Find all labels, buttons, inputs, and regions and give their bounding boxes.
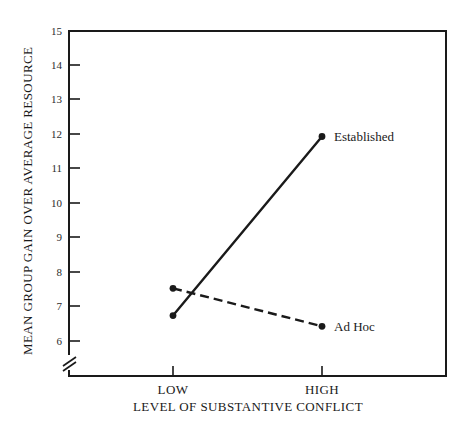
series-ad-hoc-point-low bbox=[170, 285, 177, 292]
y-tick-label-7: 7 bbox=[57, 300, 63, 312]
interaction-line-chart: MEAN GROUP GAIN OVER AVERAGE RESOURCE bbox=[0, 0, 470, 428]
series-established-label: Established bbox=[334, 129, 394, 144]
y-tick-label-13: 13 bbox=[51, 93, 63, 105]
y-tick-label-9: 9 bbox=[57, 231, 63, 243]
x-tick-label-high: HIGH bbox=[305, 382, 339, 397]
series-established-point-high bbox=[319, 133, 326, 140]
y-tick-label-6: 6 bbox=[57, 335, 63, 347]
y-tick-label-15: 15 bbox=[51, 25, 63, 37]
y-tick-label-11: 11 bbox=[51, 162, 62, 174]
series-established-point-low bbox=[170, 312, 177, 319]
y-tick-label-8: 8 bbox=[57, 266, 63, 278]
y-tick-label-12: 12 bbox=[51, 128, 62, 140]
y-axis-title: MEAN GROUP GAIN OVER AVERAGE RESOURCE bbox=[20, 47, 35, 355]
series-ad-hoc-label: Ad Hoc bbox=[334, 319, 375, 334]
x-tick-label-low: LOW bbox=[158, 382, 189, 397]
series-ad-hoc-point-high bbox=[319, 323, 326, 330]
chart-figure: MEAN GROUP GAIN OVER AVERAGE RESOURCE bbox=[0, 0, 470, 428]
y-tick-label-10: 10 bbox=[51, 197, 63, 209]
y-tick-label-14: 14 bbox=[51, 59, 63, 71]
x-axis-title: LEVEL OF SUBSTANTIVE CONFLICT bbox=[133, 399, 363, 414]
